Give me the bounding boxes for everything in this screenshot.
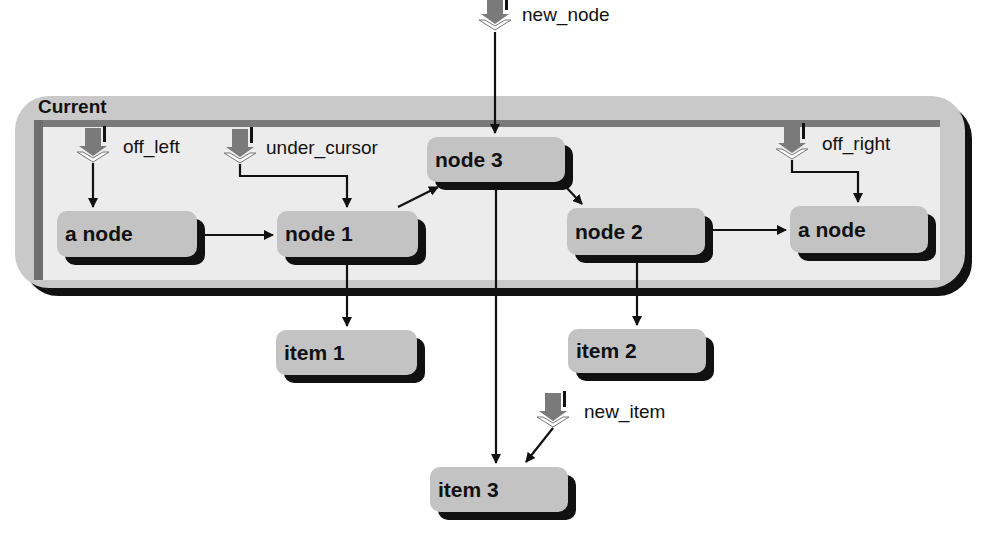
connection-arrows — [0, 0, 988, 542]
pointer-label-off-left: off_left — [123, 136, 180, 158]
pointer-label-new-item: new_item — [584, 401, 665, 423]
pointer-icon — [537, 391, 569, 427]
pointer-label-off-right: off_right — [822, 133, 890, 155]
pointer-icon — [776, 123, 808, 159]
pointer-icon — [479, 0, 511, 30]
pointer-icon — [77, 126, 109, 162]
pointer-icon — [224, 127, 256, 163]
pointer-label-under-cursor: under_cursor — [266, 137, 378, 159]
pointer-label-new-node: new_node — [522, 4, 610, 26]
